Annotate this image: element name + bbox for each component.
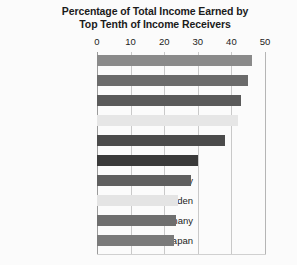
bar-guatemala	[97, 115, 238, 126]
bar-south-africa	[97, 75, 248, 86]
x-tick-label-10: 10	[125, 36, 136, 47]
x-tick-label-30: 30	[193, 36, 204, 47]
bar-germany	[97, 215, 176, 226]
bar-united-states	[97, 155, 198, 166]
x-tick-label-20: 20	[159, 36, 170, 47]
bar-japan	[97, 235, 174, 246]
chart-container: Percentage of Total Income Earned by Top…	[0, 0, 297, 265]
x-tick-label-40: 40	[226, 36, 237, 47]
chart-title-line-1: Percentage of Total Income Earned by	[30, 5, 280, 18]
bar-italy	[97, 175, 191, 186]
chart-title: Percentage of Total Income Earned by Top…	[30, 5, 280, 31]
bar-sweden	[97, 195, 178, 206]
bar-brazil	[97, 95, 241, 106]
chart-title-line-2: Top Tenth of Income Receivers	[30, 18, 280, 31]
bar-mexico	[97, 135, 225, 146]
bar-colombia	[97, 55, 252, 66]
plot-baseline	[97, 254, 266, 255]
x-tick-label-0: 0	[94, 36, 99, 47]
x-tick-label-50: 50	[260, 36, 271, 47]
gridline-50	[265, 52, 266, 255]
